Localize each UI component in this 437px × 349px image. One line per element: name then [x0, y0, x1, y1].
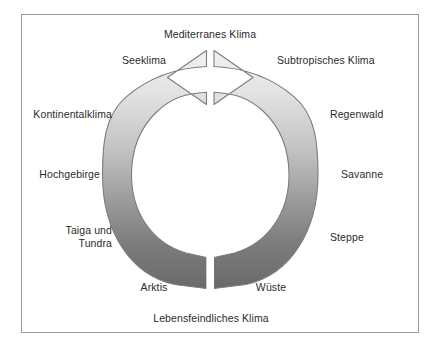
ring-right-arc: [214, 51, 318, 289]
label-taiga-und-tundra: Taiga und Tundra: [66, 224, 112, 249]
diagram-page: Mediterranes Klima Seeklima Subtropische…: [0, 0, 437, 349]
label-subtropisches-klima: Subtropisches Klima: [277, 54, 375, 67]
label-regenwald: Regenwald: [330, 108, 383, 121]
label-mediterranes-klima: Mediterranes Klima: [164, 28, 256, 41]
label-hochgebirge: Hochgebirge: [39, 168, 100, 181]
label-taiga-line1: Taiga und: [66, 224, 112, 236]
label-arktis: Arktis: [141, 281, 168, 294]
label-lebensfeindliches-klima: Lebensfeindliches Klima: [153, 312, 269, 325]
label-steppe: Steppe: [330, 231, 364, 244]
label-savanne: Savanne: [341, 168, 383, 181]
label-kontinentalklima: Kontinentalklima: [33, 108, 112, 121]
bottom-gap: [206, 252, 214, 292]
label-seeklima: Seeklima: [122, 54, 166, 67]
ring-left-arc: [103, 51, 211, 289]
label-taiga-line2: Tundra: [79, 237, 112, 249]
label-wueste: Wüste: [256, 281, 286, 294]
